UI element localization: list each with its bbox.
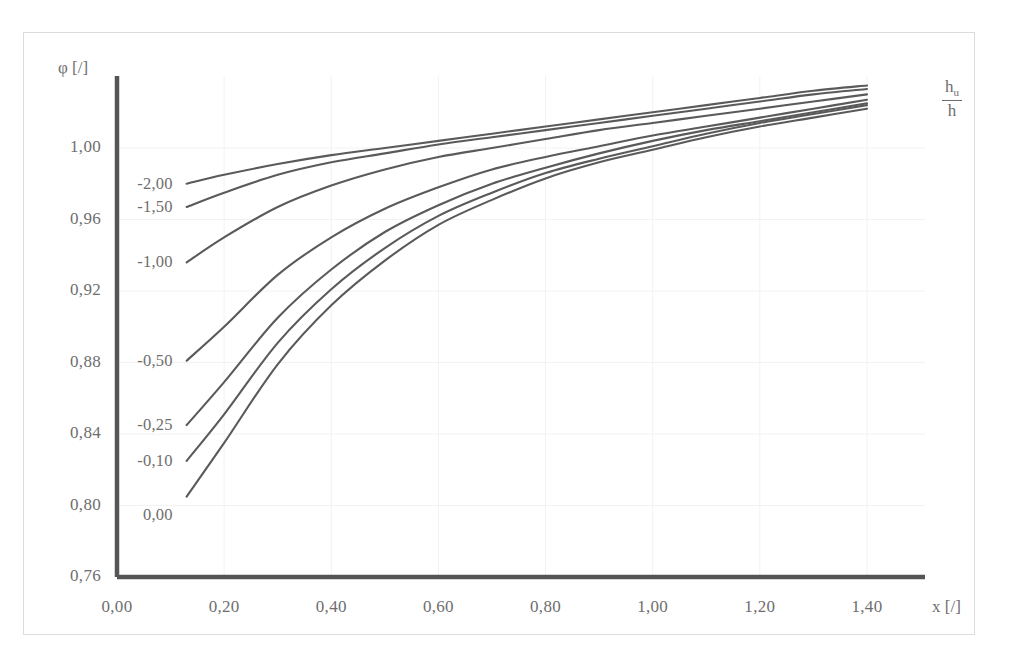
axis-lines-group (117, 76, 925, 577)
x-axis-tick-label: 0,20 (189, 597, 259, 617)
x-axis-tick-label: 1,00 (618, 597, 688, 617)
y-axis-tick-label: 0,80 (39, 495, 101, 515)
y-axis-tick-label: 0,76 (39, 566, 101, 586)
x-axis-tick-label: 0,00 (82, 597, 152, 617)
y-axis-tick-label: 0,96 (39, 209, 101, 229)
curve-series-label: -0,25 (109, 415, 173, 435)
x-axis-tick-label: 0,60 (403, 597, 473, 617)
series-parameter-label: hu h (942, 78, 962, 120)
series-parameter-numerator-text: h (945, 77, 954, 96)
y-axis-tick-label: 0,92 (39, 280, 101, 300)
curve-series-label: -0,50 (109, 351, 173, 371)
y-axis-title: φ [/] (58, 58, 88, 78)
data-curve (187, 109, 867, 497)
x-axis-title: x [/] (932, 597, 961, 617)
x-axis-tick-label: 0,40 (296, 597, 366, 617)
curve-series-label: -0,10 (109, 451, 173, 471)
gridlines-group (117, 76, 925, 577)
data-curve (187, 105, 867, 461)
data-curve (187, 103, 867, 425)
x-axis-tick-label: 0,80 (511, 597, 581, 617)
x-axis-tick-label: 1,20 (725, 597, 795, 617)
curve-series-label: -2,00 (109, 174, 173, 194)
curve-series-label: -1,50 (109, 197, 173, 217)
plot-canvas (0, 0, 1016, 667)
data-curve (187, 100, 867, 361)
chart-screenshot: φ [/] x [/] hu h 1,000,960,920,880,840,8… (0, 0, 1016, 667)
y-axis-tick-label: 0,84 (39, 423, 101, 443)
series-parameter-denominator: h (942, 101, 962, 120)
series-parameter-numerator-subscript: u (954, 86, 960, 98)
curve-series-label: 0,00 (109, 505, 173, 525)
x-axis-tick-label: 1,40 (832, 597, 902, 617)
series-parameter-numerator: hu (942, 78, 962, 101)
curve-series-label: -1,00 (109, 252, 173, 272)
y-axis-tick-label: 1,00 (39, 137, 101, 157)
y-axis-tick-label: 0,88 (39, 352, 101, 372)
